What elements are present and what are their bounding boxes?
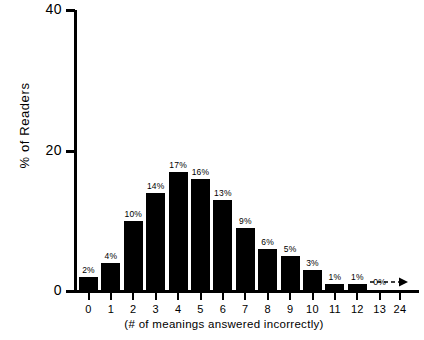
x-tick-label: 12 — [345, 303, 369, 315]
y-tick-label: 20 — [0, 142, 72, 158]
x-tick-label: 10 — [301, 303, 325, 315]
x-tick-label: 2 — [121, 303, 145, 315]
plot-area: 2%4%10%14%17%16%13%9%6%5%3%1%1%0% — [77, 10, 419, 291]
x-tick — [177, 292, 179, 300]
bar — [79, 277, 98, 291]
bar — [258, 249, 277, 291]
x-tick-label: 3 — [144, 303, 168, 315]
x-tick — [379, 292, 381, 300]
bar-value-label: 16% — [185, 167, 216, 177]
x-tick — [289, 292, 291, 300]
x-tick — [132, 292, 134, 300]
bar-value-label: 13% — [207, 188, 238, 198]
x-tick-label: 7 — [233, 303, 257, 315]
x-tick — [110, 292, 112, 300]
bar-value-label: 9% — [230, 216, 261, 226]
x-tick — [244, 292, 246, 300]
x-tick — [312, 292, 314, 300]
y-axis-title: % of Readers — [17, 66, 32, 186]
x-tick-label: 8 — [256, 303, 280, 315]
x-tick — [267, 292, 269, 300]
bar-value-label: 4% — [95, 251, 126, 261]
x-tick — [222, 292, 224, 300]
x-tick-label: 24 — [388, 303, 412, 315]
x-tick-label: 0 — [77, 303, 101, 315]
bar — [124, 221, 143, 291]
bar-value-label: 14% — [140, 181, 171, 191]
x-tick-label: 6 — [211, 303, 235, 315]
bar-value-label: 2% — [73, 265, 104, 275]
bar-chart: % of Readers 02040 2%4%10%14%17%16%13%9%… — [0, 0, 424, 340]
x-tick — [200, 292, 202, 300]
dashed-arrow-icon — [370, 274, 412, 286]
bar — [101, 263, 120, 291]
x-tick-label: 4 — [166, 303, 190, 315]
x-tick — [356, 292, 358, 300]
bar-value-label: 10% — [118, 209, 149, 219]
bar — [213, 200, 232, 291]
x-tick — [399, 292, 401, 300]
bar — [169, 172, 188, 291]
bar — [146, 193, 165, 291]
y-tick-label: 40 — [0, 1, 72, 17]
y-tick-label: 0 — [0, 282, 72, 298]
x-tick-label: 9 — [278, 303, 302, 315]
x-axis-title: (# of meanings answered incorrectly) — [74, 318, 374, 330]
x-tick — [88, 292, 90, 300]
x-tick — [334, 292, 336, 300]
x-tick — [155, 292, 157, 300]
bar-value-label: 5% — [275, 244, 306, 254]
bar-value-label: 3% — [297, 258, 328, 268]
x-tick-label: 1 — [99, 303, 123, 315]
x-tick-label: 5 — [189, 303, 213, 315]
bar — [325, 284, 344, 291]
x-tick-label: 11 — [323, 303, 347, 315]
